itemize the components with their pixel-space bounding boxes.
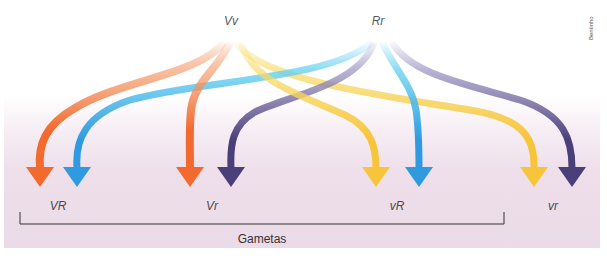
parent-label-vv: Vv [224,14,238,28]
parent-label-rr: Rr [372,14,385,28]
gamete-label-VR: VR [50,199,67,213]
gamete-formation-diagram [0,0,607,258]
gamete-label-Vr: Vr [206,199,218,213]
gamete-label-vR: vR [390,199,405,213]
illustrator-credit: Bentinho [588,16,594,40]
arrow-rr-to-vR [382,42,433,187]
gametes-bracket [20,212,504,224]
gametes-title: Gametas [238,232,287,246]
gamete-label-vr: vr [548,199,558,213]
